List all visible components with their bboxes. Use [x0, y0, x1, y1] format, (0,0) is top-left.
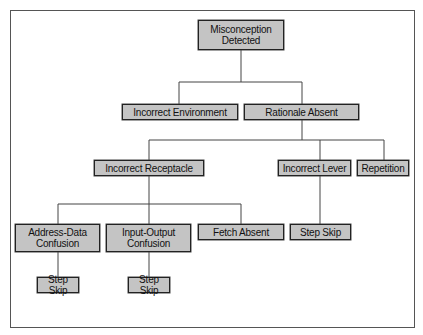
node-misconception-detected: Misconception Detected: [198, 20, 284, 50]
node-label-line2: Confusion: [127, 238, 170, 249]
node-label: Step Skip: [38, 274, 78, 296]
node-incorrect-receptacle: Incorrect Receptacle: [94, 160, 204, 176]
node-label-line1: Misconception: [210, 24, 271, 35]
node-fetch-absent: Fetch Absent: [198, 224, 284, 240]
node-label: Incorrect Receptacle: [105, 163, 193, 174]
node-label: Incorrect Lever: [283, 163, 347, 174]
node-label-line1: Input-Output: [122, 227, 175, 238]
node-input-output-confusion: Input-Output Confusion: [106, 224, 191, 252]
node-label: Step Skip: [300, 227, 341, 238]
node-step-skip-lever: Step Skip: [290, 224, 351, 240]
node-label-line2: Detected: [222, 35, 260, 46]
node-rationale-absent: Rationale Absent: [244, 104, 359, 120]
node-label: Step Skip: [129, 274, 169, 296]
node-repetition: Repetition: [357, 160, 409, 176]
node-label: Fetch Absent: [213, 227, 269, 238]
node-step-skip-address: Step Skip: [37, 277, 79, 293]
node-step-skip-io: Step Skip: [128, 277, 170, 293]
node-address-data-confusion: Address-Data Confusion: [15, 224, 100, 252]
node-incorrect-environment: Incorrect Environment: [122, 104, 238, 120]
node-label: Rationale Absent: [265, 107, 337, 118]
node-label-line1: Address-Data: [28, 227, 87, 238]
node-label: Incorrect Environment: [133, 107, 227, 118]
node-label-line2: Confusion: [36, 238, 79, 249]
node-label: Repetition: [361, 163, 404, 174]
node-incorrect-lever: Incorrect Lever: [278, 160, 351, 176]
